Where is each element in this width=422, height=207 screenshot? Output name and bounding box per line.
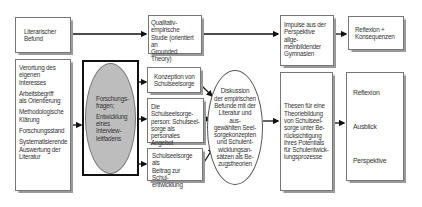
ellipse-text: wicklungsan- <box>218 146 252 153</box>
outlook-item: Ausblick <box>353 123 397 130</box>
discussion-ellipse: Diskussion der empirischen Befunde mit d… <box>207 70 263 185</box>
box-text: für Schulentwick- <box>284 146 329 153</box>
ellipse-text: der empirischen <box>214 95 256 102</box>
ellipse-text: Befunde mit der <box>214 102 255 109</box>
box-text: lungsprozesse <box>284 153 329 160</box>
box-text: Befund <box>24 35 66 42</box>
concept-box: Konzeption von Schulseelsorge <box>147 67 201 93</box>
box-text: Literarischer <box>24 28 66 35</box>
box-text: ihres Potentials <box>284 139 329 146</box>
ellipse-text: Entwicklung <box>96 113 127 120</box>
reflection-consequences-box: Reflexion + Konsequenzen <box>348 16 404 50</box>
contribution-box: Schulseelsorge als Beitrag zur Schul- en… <box>147 148 203 181</box>
outlook-item: Reflexion <box>353 89 397 96</box>
box-text: Impulse aus der <box>284 21 330 28</box>
person-box: Die Schulseelsorge- person: Schulseel- s… <box>147 98 204 143</box>
box-text: Konsequenzen <box>355 33 399 40</box>
ellipse-text: und Schulent- <box>217 138 253 145</box>
box-text: Reflexion + <box>355 26 399 33</box>
box-text: Angebot <box>151 139 200 146</box>
literary-finding-box: Literarischer Befund <box>15 17 71 53</box>
ellipse-text: Forschungs- <box>96 95 129 102</box>
list-item: MethodologischeKlärung <box>19 108 67 123</box>
list-item: Forschungsstand <box>19 127 67 134</box>
qualitative-study-box: Qualitativ-empirische Studie (orientiert… <box>148 15 202 54</box>
box-text: Studie (orientiert an <box>151 34 199 49</box>
theses-box: Thesen für eine Theoriebildung von Schul… <box>280 72 333 191</box>
ellipse-text: gewählten Seel- <box>214 124 256 131</box>
box-text: Gymnasien <box>284 50 330 57</box>
box-text: sorge unter Be- <box>284 124 329 131</box>
box-text: Grounded Theory) <box>151 48 199 63</box>
ellipse-text: eines Interview- <box>96 120 135 135</box>
box-text: Qualitativ-empirische <box>151 19 199 34</box>
box-text: rücksichtigung <box>284 132 329 139</box>
box-text: Die Schulseelsorge- <box>151 103 200 118</box>
box-text: von Schulseel- <box>284 117 329 124</box>
ellipse-text: Literatur und aus- <box>213 109 257 124</box>
box-text: Konzeption von <box>154 73 196 80</box>
ellipse-text: zugstheorien <box>218 160 252 167</box>
box-text: meinbildender <box>284 43 330 50</box>
list-item: Verortung deseigenen Interesses <box>19 64 67 86</box>
outlook-item: Perspektive <box>353 157 397 164</box>
left-list-box: Verortung deseigenen Interesses Arbeitsb… <box>15 59 71 191</box>
box-text: Schulseelsorge als <box>152 152 198 167</box>
box-text: Schulseelsorge <box>154 80 196 87</box>
research-questions-ellipse: Forschungs- fragen; Entwicklung eines In… <box>85 63 136 174</box>
outlook-box: Reflexion Ausblick Perspektive <box>346 72 404 181</box>
ellipse-text: fragen; <box>96 102 114 109</box>
ellipse-text: leitfadens <box>96 135 121 142</box>
list-item: Arbeitsbegriffals Orientierung <box>19 90 67 105</box>
impulses-box: Impulse aus der Perspektive allge- meinb… <box>280 15 334 66</box>
box-text: person: Schulseel- <box>151 118 200 125</box>
box-text: Beitrag zur Schul- <box>152 167 198 182</box>
ellipse-text: sätzen als Be- <box>216 153 253 160</box>
ellipse-text: Diskussion <box>221 87 249 94</box>
box-text: Thesen für eine <box>284 102 329 109</box>
ellipse-text: sorgekonzepten <box>214 131 256 138</box>
box-text: entwicklung <box>152 181 198 188</box>
box-text: Perspektive allge- <box>284 28 330 43</box>
box-text: sorge als personales <box>151 125 200 140</box>
list-item: SystematisierendeAuswertung derLiteratur <box>19 138 67 160</box>
box-text: Theoriebildung <box>284 110 329 117</box>
